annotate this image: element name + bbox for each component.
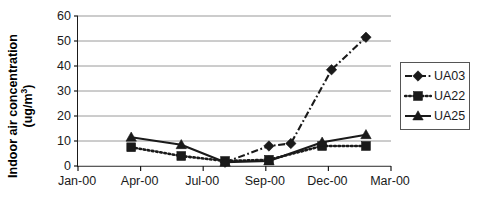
data-point-UA03-1	[264, 141, 274, 151]
y-tick-label-0: 0	[45, 159, 71, 173]
y-tick-label-60: 60	[45, 9, 71, 23]
y-tick-label-20: 20	[45, 109, 71, 123]
data-point-UA22-0	[127, 143, 136, 152]
series-line-UA25	[131, 135, 366, 163]
legend-item-1[interactable]: UA22	[404, 86, 467, 106]
legend-key-icon-2	[404, 107, 432, 125]
gridlines	[78, 16, 391, 166]
data-series-layer	[126, 32, 371, 167]
x-tick-label-0: Jan-00	[58, 174, 96, 188]
legend-key-icon-0	[404, 67, 432, 85]
chart-figure: Indoor air concentration (ug/m3) 0102030…	[0, 0, 491, 212]
x-axis-ticks	[78, 166, 391, 171]
y-axis-title-line1: Indoor air concentration	[6, 34, 20, 178]
x-tick-label-3: Sep-00	[245, 174, 285, 188]
y-tick-label-30: 30	[45, 84, 71, 98]
chart-canvas	[78, 16, 391, 166]
y-axis-tick-labels: 0102030405060	[45, 16, 71, 166]
data-point-UA03-2	[286, 138, 296, 148]
y-axis-title-exponent: 3	[19, 89, 29, 94]
y-axis-title: Indoor air concentration (ug/m3)	[0, 0, 42, 212]
legend-marker-UA03	[413, 71, 423, 81]
data-point-UA22-1	[177, 152, 186, 161]
series-UA25	[126, 130, 371, 167]
y-axis-title-units-tail: )	[21, 85, 35, 89]
legend-key-icon-1	[404, 87, 432, 105]
data-point-UA25-0	[126, 132, 136, 141]
legend-label-1: UA22	[434, 89, 465, 103]
plot-area	[77, 16, 391, 167]
legend-marker-UA22	[414, 92, 423, 101]
legend-item-0[interactable]: UA03	[404, 66, 467, 86]
y-tick-label-10: 10	[45, 134, 71, 148]
x-axis-tick-labels: Jan-00Apr-00Jul-00Sep-00Dec-00Mar-00	[77, 174, 390, 194]
x-tick-label-1: Apr-00	[121, 174, 159, 188]
y-axis-title-units: (ug/m	[21, 93, 35, 127]
legend-label-0: UA03	[434, 69, 465, 83]
y-tick-label-50: 50	[45, 34, 71, 48]
legend-item-2[interactable]: UA25	[404, 106, 467, 126]
y-tick-label-40: 40	[45, 59, 71, 73]
x-tick-label-5: Mar-00	[370, 174, 410, 188]
data-point-UA22-5	[362, 142, 371, 151]
x-tick-label-4: Dec-00	[307, 174, 347, 188]
y-axis-title-line2: (ug/m3)	[21, 34, 36, 178]
legend-label-2: UA25	[434, 109, 465, 123]
x-tick-label-2: Jul-00	[185, 174, 219, 188]
chart-legend: UA03 UA22 UA25	[400, 62, 470, 130]
y-axis-ticks	[74, 16, 78, 166]
data-point-UA25-5	[361, 130, 371, 139]
